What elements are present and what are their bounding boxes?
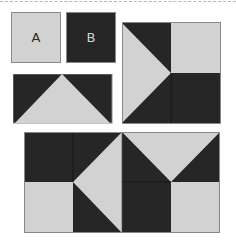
piece-b: B bbox=[66, 12, 116, 63]
piece-b-label: B bbox=[87, 30, 96, 45]
triangle-rect-block bbox=[13, 74, 113, 124]
right-square-block bbox=[122, 22, 222, 125]
dashed-top-border bbox=[0, 1, 236, 2]
piece-a: A bbox=[11, 12, 61, 63]
bottom-rect-block bbox=[24, 132, 221, 234]
piece-a-label: A bbox=[32, 30, 41, 45]
